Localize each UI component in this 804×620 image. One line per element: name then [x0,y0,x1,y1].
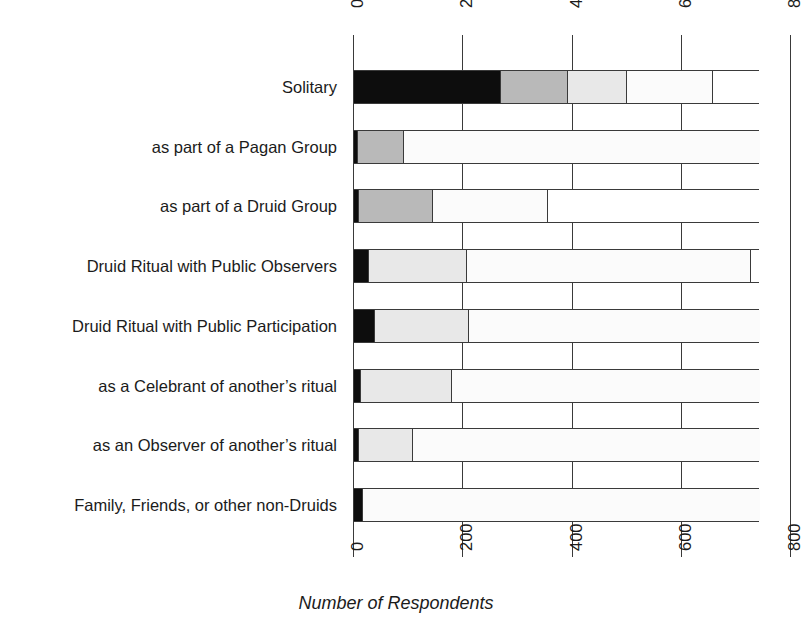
category-label-1: as part of a Pagan Group [152,138,337,157]
gridline-400 [572,35,573,557]
bar-row [353,130,790,164]
gridline-800 [790,35,791,557]
bar-segment [467,250,751,282]
bar-segment [627,71,713,103]
bottom-tick-label-200: 200 [457,523,476,551]
bar-segment [501,71,568,103]
bar-segment [413,429,760,461]
bar-segment [713,71,761,103]
bar-segment [469,310,761,342]
plot-area [353,57,790,535]
category-label-6: as an Observer of another’s ritual [93,436,337,455]
bar-row [353,369,790,403]
stacked-bar [353,309,759,343]
bar-row [353,249,790,283]
bar-segment [358,131,404,163]
gridline-0 [353,35,354,557]
x-axis-title: Number of Respondents [0,593,792,614]
stacked-bar [353,428,759,462]
bar-row [353,189,790,223]
stacked-bar [353,189,759,223]
bar-row [353,70,790,104]
top-tick-label-200: 200 [457,0,476,8]
bottom-tick-label-800: 800 [785,523,804,551]
bar-segment [354,250,369,282]
top-tick-label-800: 800 [785,0,804,8]
category-label-5: as a Celebrant of another’s ritual [98,377,337,396]
bar-segment [548,190,760,222]
bar-segment [363,489,761,521]
bar-row [353,309,790,343]
bottom-tick-label-400: 400 [567,523,586,551]
top-tick-label-0: 0 [348,0,367,8]
category-axis-labels: Solitaryas part of a Pagan Groupas part … [0,57,345,535]
bar-segment [354,489,363,521]
category-label-4: Druid Ritual with Public Participation [72,317,337,336]
category-label-3: Druid Ritual with Public Observers [87,257,337,276]
category-label-7: Family, Friends, or other non-Druids [74,496,337,515]
bar-segment [452,370,760,402]
stacked-bar [353,70,759,104]
category-label-0: Solitary [282,78,337,97]
stacked-bar [353,369,759,403]
bar-segment [361,370,453,402]
bar-row [353,428,790,462]
bar-segment [404,131,760,163]
bar-segment [369,250,467,282]
stacked-bar [353,249,759,283]
bar-segment [375,310,469,342]
bar-row [353,488,790,522]
stacked-bar [353,130,759,164]
bar-segment [359,190,433,222]
bottom-tick-label-0: 0 [348,542,367,551]
category-label-2: as part of a Druid Group [160,197,337,216]
top-tick-label-400: 400 [567,0,586,8]
bottom-tick-label-600: 600 [676,523,695,551]
bar-segment [568,71,627,103]
stacked-bar [353,488,759,522]
bar-segment [751,250,761,282]
gridline-200 [462,35,463,557]
bar-segment [359,429,413,461]
top-tick-label-600: 600 [676,0,695,8]
bar-segment [354,310,375,342]
bar-segment [433,190,548,222]
bar-segment [354,71,501,103]
gridline-600 [681,35,682,557]
